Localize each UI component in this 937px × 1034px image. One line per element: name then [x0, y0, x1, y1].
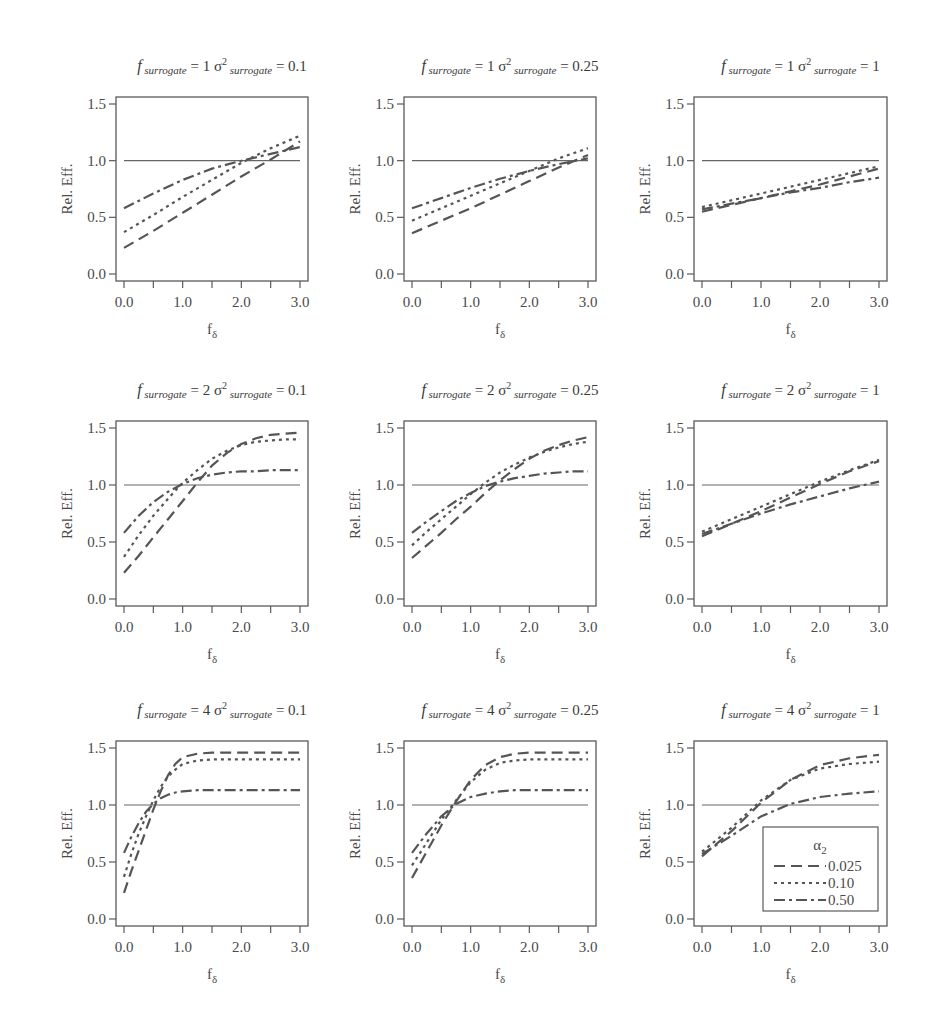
series-line-0.50: [412, 158, 588, 208]
x-axis-label: fδ: [785, 646, 795, 665]
x-axis-label: fδ: [495, 646, 505, 665]
series-line-0.025: [412, 753, 588, 878]
panel-7: f surrogate = 4 σ2 surrogate = 0.10.00.5…: [59, 700, 309, 985]
series-line-0.50: [412, 471, 588, 533]
panel-title: f surrogate = 4 σ2 surrogate = 0.1: [137, 700, 307, 720]
panel-title: f surrogate = 2 σ2 surrogate = 1: [721, 380, 879, 400]
legend-label: 0.10: [828, 875, 854, 891]
y-axis-label: Rel. Eff.: [59, 808, 75, 859]
x-tick-label: 2.0: [811, 939, 830, 955]
y-tick-label: 1.0: [375, 797, 394, 813]
panel-title: f surrogate = 4 σ2 surrogate = 0.25: [421, 700, 598, 720]
y-tick-label: 0.5: [375, 534, 394, 550]
y-tick-label: 1.0: [375, 477, 394, 493]
x-tick-label: 0.0: [115, 939, 134, 955]
legend-label: 0.025: [828, 858, 862, 874]
series-line-0.50: [124, 470, 300, 533]
x-tick-label: 2.0: [811, 294, 830, 310]
x-tick-label: 0.0: [403, 294, 422, 310]
y-tick-label: 0.5: [375, 854, 394, 870]
x-tick-label: 0.0: [693, 939, 712, 955]
legend-label: 0.50: [828, 892, 854, 908]
y-axis-label: Rel. Eff.: [59, 164, 75, 215]
x-tick-label: 1.0: [461, 939, 480, 955]
x-tick-label: 1.0: [173, 294, 192, 310]
x-tick-label: 3.0: [579, 294, 598, 310]
panel-4: f surrogate = 2 σ2 surrogate = 0.10.00.5…: [59, 380, 309, 665]
y-tick-label: 1.5: [87, 420, 106, 436]
y-axis-label: Rel. Eff.: [59, 488, 75, 539]
series-line-0.50: [124, 790, 300, 853]
x-tick-label: 0.0: [403, 939, 422, 955]
series-line-0.10: [702, 166, 879, 207]
x-tick-label: 3.0: [291, 939, 310, 955]
y-tick-label: 0.5: [665, 209, 684, 225]
x-tick-label: 3.0: [291, 294, 310, 310]
x-tick-label: 2.0: [232, 939, 251, 955]
series-line-0.10: [124, 136, 300, 232]
y-axis-label: Rel. Eff.: [637, 808, 653, 859]
plot-frame: [116, 741, 308, 926]
plot-frame: [694, 97, 887, 281]
panel-8: f surrogate = 4 σ2 surrogate = 0.250.00.…: [347, 700, 599, 985]
y-tick-label: 0.0: [375, 266, 394, 282]
series-line-0.025: [124, 433, 300, 573]
y-tick-label: 1.5: [375, 740, 394, 756]
panel-title: f surrogate = 1 σ2 surrogate = 0.1: [137, 56, 307, 76]
y-axis-label: Rel. Eff.: [347, 808, 363, 859]
x-tick-label: 3.0: [579, 939, 598, 955]
panel-2: f surrogate = 1 σ2 surrogate = 0.250.00.…: [347, 56, 599, 340]
x-tick-label: 3.0: [870, 939, 889, 955]
panel-title: f surrogate = 1 σ2 surrogate = 1: [721, 56, 879, 76]
x-axis-label: fδ: [207, 966, 217, 985]
series-line-0.10: [412, 759, 588, 865]
x-tick-label: 0.0: [693, 619, 712, 635]
y-tick-label: 0.5: [87, 854, 106, 870]
x-tick-label: 1.0: [173, 939, 192, 955]
y-tick-label: 1.0: [665, 477, 684, 493]
y-tick-label: 1.5: [87, 740, 106, 756]
y-tick-label: 1.5: [665, 96, 684, 112]
series-line-0.50: [124, 147, 300, 208]
x-axis-label: fδ: [207, 321, 217, 340]
y-tick-label: 1.0: [87, 477, 106, 493]
x-tick-label: 0.0: [403, 619, 422, 635]
x-tick-label: 1.0: [173, 619, 192, 635]
y-axis-label: Rel. Eff.: [347, 488, 363, 539]
x-axis-label: fδ: [495, 966, 505, 985]
y-tick-label: 1.0: [87, 153, 106, 169]
y-tick-label: 1.5: [87, 96, 106, 112]
panel-title: f surrogate = 1 σ2 surrogate = 0.25: [421, 56, 598, 76]
x-tick-label: 1.0: [752, 619, 771, 635]
y-tick-label: 1.5: [665, 420, 684, 436]
series-line-0.025: [412, 155, 588, 233]
x-tick-label: 3.0: [870, 294, 889, 310]
plot-frame: [116, 421, 308, 606]
x-tick-label: 1.0: [461, 619, 480, 635]
panel-3: f surrogate = 1 σ2 surrogate = 10.00.51.…: [637, 56, 888, 340]
y-tick-label: 1.0: [665, 153, 684, 169]
x-axis-label: fδ: [785, 321, 795, 340]
x-axis-label: fδ: [785, 966, 795, 985]
series-line-0.50: [702, 178, 879, 210]
y-axis-label: Rel. Eff.: [637, 164, 653, 215]
y-tick-label: 1.5: [375, 96, 394, 112]
y-tick-label: 0.0: [87, 266, 106, 282]
y-tick-label: 0.0: [87, 591, 106, 607]
y-tick-label: 0.0: [375, 591, 394, 607]
legend: α20.0250.100.50: [763, 827, 878, 911]
series-line-0.50: [412, 790, 588, 853]
panel-title: f surrogate = 2 σ2 surrogate = 0.25: [421, 380, 598, 400]
series-line-0.10: [412, 442, 588, 546]
x-tick-label: 2.0: [232, 294, 251, 310]
panel-9: f surrogate = 4 σ2 surrogate = 10.00.51.…: [637, 700, 888, 985]
y-tick-label: 1.5: [665, 740, 684, 756]
series-line-0.10: [702, 460, 879, 532]
series-line-0.025: [124, 753, 300, 893]
x-axis-label: fδ: [207, 646, 217, 665]
x-tick-label: 3.0: [291, 619, 310, 635]
panel-5: f surrogate = 2 σ2 surrogate = 0.250.00.…: [347, 380, 599, 665]
x-tick-label: 0.0: [115, 294, 134, 310]
y-tick-label: 0.5: [375, 209, 394, 225]
y-tick-label: 0.0: [665, 911, 684, 927]
